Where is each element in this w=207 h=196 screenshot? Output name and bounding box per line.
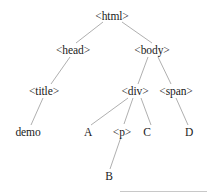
edge-title-demo — [31, 98, 43, 125]
edge-html-head — [76, 22, 103, 43]
edge-html-body — [122, 22, 152, 43]
tree-edges — [0, 0, 207, 196]
node-head: <head> — [56, 44, 90, 56]
node-html: <html> — [95, 10, 128, 22]
node-div: <div> — [121, 85, 148, 97]
node-d: D — [185, 126, 193, 138]
node-body: <body> — [134, 44, 169, 56]
dom-tree-diagram: <html> <head> <body> <title> <div> <span… — [0, 0, 207, 196]
edge-div-p — [124, 98, 133, 124]
node-a: A — [84, 126, 92, 138]
node-demo: demo — [15, 126, 40, 138]
node-span: <span> — [159, 85, 192, 97]
node-title: <title> — [29, 85, 59, 97]
edge-div-a — [91, 98, 128, 125]
bottom-divider — [120, 191, 207, 192]
edge-p-b — [110, 137, 121, 169]
edge-body-span — [158, 57, 171, 84]
edge-span-d — [176, 98, 188, 125]
node-c: C — [143, 126, 151, 138]
edge-body-div — [138, 57, 148, 84]
edge-head-title — [51, 57, 70, 84]
edge-div-c — [141, 98, 151, 125]
node-p: <p> — [113, 126, 131, 138]
node-b: B — [105, 170, 113, 182]
